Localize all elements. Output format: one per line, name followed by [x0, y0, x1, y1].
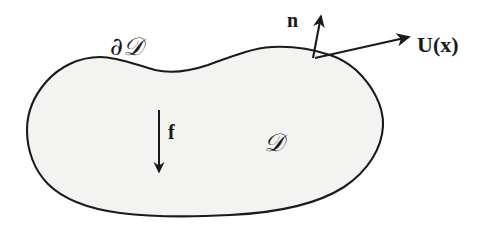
domain-diagram-figure: ∂𝒟 𝒟 n U(x) f	[0, 0, 501, 227]
body-force-label: f	[168, 122, 175, 142]
boundary-label: ∂𝒟	[110, 34, 144, 59]
normal-vector-label: n	[287, 10, 298, 30]
domain-region-blob	[27, 47, 383, 217]
velocity-field-arrow	[315, 37, 409, 58]
domain-label: 𝒟	[264, 130, 284, 155]
velocity-field-label: U(x)	[417, 34, 459, 56]
